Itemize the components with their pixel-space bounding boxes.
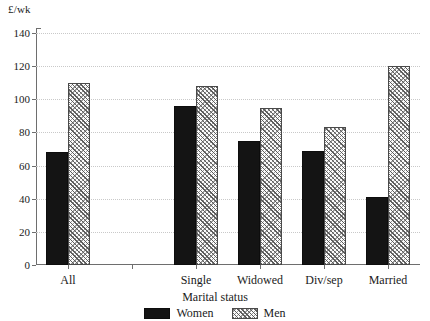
gridline — [36, 66, 420, 67]
legend-label-women: Women — [176, 306, 213, 321]
x-axis-line — [36, 264, 420, 265]
x-axis-category-label: Div/sep — [305, 273, 342, 288]
y-axis-tick-label: 0 — [25, 259, 31, 271]
chart-legend: Women Men — [0, 306, 430, 321]
bar-men-married — [388, 66, 410, 265]
legend-item-women: Women — [144, 306, 213, 321]
gridline — [36, 232, 420, 233]
bar-women-div-sep — [302, 151, 324, 265]
gridline — [36, 33, 420, 34]
y-axis-tick-mark — [32, 232, 36, 233]
x-axis-category-label: Married — [369, 273, 408, 288]
y-axis-tick-label: 20 — [19, 226, 30, 238]
x-axis-tick-mark — [388, 265, 389, 269]
bar-men-single — [196, 86, 218, 265]
gridline — [36, 199, 420, 200]
x-axis-category-label: Single — [181, 273, 212, 288]
y-axis-tick-mark — [32, 166, 36, 167]
x-axis-tick-mark — [132, 265, 133, 269]
y-axis-tick-label: 40 — [19, 193, 30, 205]
bar-men-div-sep — [324, 127, 346, 265]
y-axis-tick-label: 60 — [19, 160, 30, 172]
plot-area: 020406080100120140AllSingleWidowedDiv/se… — [36, 33, 420, 265]
y-axis-tick-mark — [32, 66, 36, 67]
x-axis-tick-mark — [196, 265, 197, 269]
bar-women-widowed — [238, 141, 260, 265]
y-axis-tick-label: 140 — [14, 27, 31, 39]
y-axis-tick-mark — [32, 199, 36, 200]
x-axis-tick-mark — [324, 265, 325, 269]
y-axis-tick-mark — [32, 265, 36, 266]
y-axis-tick-mark — [32, 132, 36, 133]
legend-label-men: Men — [264, 306, 286, 321]
legend-swatch-men-icon — [232, 308, 258, 319]
y-axis-tick-label: 80 — [19, 126, 30, 138]
x-axis-tick-mark — [260, 265, 261, 269]
gridline — [36, 99, 420, 100]
x-axis-category-label: Widowed — [237, 273, 283, 288]
bar-chart: £/wk 020406080100120140AllSingleWidowedD… — [0, 0, 430, 321]
bar-men-widowed — [260, 108, 282, 265]
y-axis-cap — [36, 28, 41, 29]
x-axis-tick-mark — [68, 265, 69, 269]
x-axis-title: Marital status — [0, 290, 430, 305]
legend-item-men: Men — [232, 306, 286, 321]
bar-men-all — [68, 83, 90, 265]
gridline — [36, 166, 420, 167]
gridline — [36, 132, 420, 133]
y-axis-tick-label: 100 — [14, 93, 31, 105]
y-axis-tick-mark — [32, 33, 36, 34]
bar-women-single — [174, 106, 196, 265]
y-axis-tick-label: 120 — [14, 60, 31, 72]
y-axis-line — [36, 28, 37, 265]
y-axis-tick-mark — [32, 99, 36, 100]
y-axis-unit-label: £/wk — [8, 3, 31, 15]
bar-women-married — [366, 197, 388, 265]
legend-swatch-women-icon — [144, 308, 170, 319]
x-axis-category-label: All — [60, 273, 75, 288]
bar-women-all — [46, 152, 68, 265]
